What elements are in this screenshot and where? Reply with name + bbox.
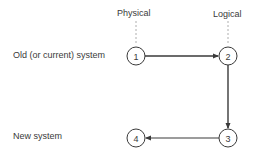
flow-diagram: 1 2 3 4 xyxy=(0,0,255,153)
node-1-label: 1 xyxy=(133,52,138,62)
node-1: 1 xyxy=(127,47,145,65)
node-2-label: 2 xyxy=(225,52,230,62)
node-4: 4 xyxy=(127,129,145,147)
node-2: 2 xyxy=(219,47,237,65)
node-3-label: 3 xyxy=(225,134,230,144)
node-4-label: 4 xyxy=(133,134,138,144)
node-3: 3 xyxy=(219,129,237,147)
